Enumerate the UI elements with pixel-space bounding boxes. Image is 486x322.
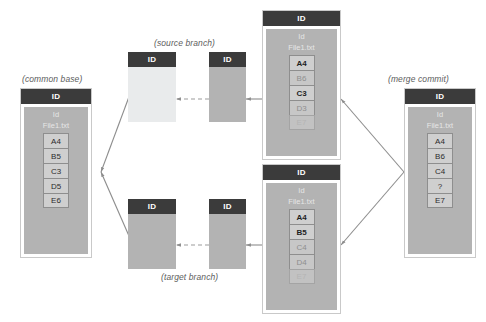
line-row: C4 (289, 239, 315, 254)
line-row: A4 (43, 133, 69, 148)
file-panel: Id File1.txt A4 B5 C4 D4 E7 (266, 183, 337, 310)
caption-source-branch: (source branch) (154, 38, 215, 48)
line-rows: A4 B6 C3 D3 E7 (289, 55, 315, 130)
branch-node-target-1[interactable]: ID (128, 199, 176, 269)
card-header-id: ID (263, 11, 340, 26)
node-header-id: ID (128, 199, 176, 214)
caption-common-base: (common base) (22, 74, 82, 84)
edge-merge-to-source (341, 99, 404, 172)
line-row: E7 (289, 269, 315, 284)
node-body (209, 214, 246, 269)
line-row: B6 (427, 148, 453, 163)
commit-card-common-base[interactable]: ID Id File1.txt A4 B5 C3 D5 E6 (20, 88, 92, 258)
commit-card-target-tip[interactable]: ID Id File1.txt A4 B5 C4 D4 E7 (262, 164, 341, 314)
node-header-id: ID (128, 52, 176, 67)
edge-merge-to-target (341, 172, 404, 245)
line-row: B5 (289, 224, 315, 239)
node-body (128, 214, 176, 269)
branch-node-source-1[interactable]: ID (128, 52, 176, 122)
line-row: A4 (289, 209, 315, 224)
file-panel: Id File1.txt A4 B6 C3 D3 E7 (266, 29, 337, 156)
panel-file-label: File1.txt (288, 196, 314, 207)
merge-diagram: (common base) (source branch) (target br… (0, 0, 486, 322)
node-header-id: ID (209, 52, 246, 67)
card-body: Id File1.txt A4 B6 C3 D3 E7 (263, 26, 340, 159)
line-row: B5 (43, 148, 69, 163)
file-panel: Id File1.txt A4 B5 C3 D5 E6 (24, 107, 88, 254)
line-rows: A4 B6 C4 ? E7 (427, 133, 453, 208)
branch-node-target-2[interactable]: ID (209, 199, 246, 269)
line-rows: A4 B5 C3 D5 E6 (43, 133, 69, 208)
line-row: E6 (43, 193, 69, 208)
panel-file-label: File1.txt (43, 120, 69, 131)
commit-card-merge-commit[interactable]: ID Id File1.txt A4 B6 C4 ? E7 (404, 88, 476, 258)
panel-id-label: Id (437, 110, 443, 120)
line-row: ? (427, 178, 453, 193)
card-body: Id File1.txt A4 B5 C3 D5 E6 (21, 104, 91, 257)
line-row: D5 (43, 178, 69, 193)
panel-id-label: Id (298, 186, 304, 196)
card-header-id: ID (405, 89, 475, 104)
commit-card-source-tip[interactable]: ID Id File1.txt A4 B6 C3 D3 E7 (262, 10, 341, 160)
card-header-id: ID (263, 165, 340, 180)
line-row: A4 (427, 133, 453, 148)
node-body (128, 67, 176, 122)
line-row: C3 (289, 85, 315, 100)
card-body: Id File1.txt A4 B5 C4 D4 E7 (263, 180, 340, 313)
caption-target-branch: (target branch) (161, 272, 218, 282)
line-row: E7 (289, 115, 315, 130)
branch-node-source-2[interactable]: ID (209, 52, 246, 122)
line-row: C4 (427, 163, 453, 178)
line-row: C3 (43, 163, 69, 178)
node-body (209, 67, 246, 122)
line-row: B6 (289, 70, 315, 85)
file-panel: Id File1.txt A4 B6 C4 ? E7 (408, 107, 472, 254)
panel-file-label: File1.txt (427, 120, 453, 131)
panel-id-label: Id (298, 32, 304, 42)
card-header-id: ID (21, 89, 91, 104)
line-row: A4 (289, 55, 315, 70)
caption-merge-commit: (merge commit) (388, 74, 449, 84)
panel-file-label: File1.txt (288, 42, 314, 53)
node-header-id: ID (209, 199, 246, 214)
line-row: D4 (289, 254, 315, 269)
line-rows: A4 B5 C4 D4 E7 (289, 209, 315, 284)
line-row: D3 (289, 100, 315, 115)
panel-id-label: Id (53, 110, 59, 120)
card-body: Id File1.txt A4 B6 C4 ? E7 (405, 104, 475, 257)
line-row: E7 (427, 193, 453, 208)
